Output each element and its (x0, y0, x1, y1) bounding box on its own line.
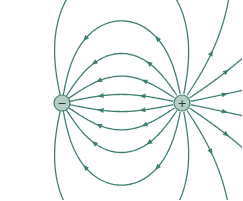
arrow-icon (207, 148, 214, 156)
field-line (70, 94, 173, 101)
arrow-icon (97, 93, 104, 99)
field-line (55, 0, 189, 95)
arrow-icon (208, 49, 215, 57)
field-line (187, 0, 231, 96)
positive-charge: + (174, 95, 190, 111)
field-line (187, 111, 231, 201)
negative-charge: − (54, 95, 70, 111)
field-line-group (55, 0, 242, 200)
field-lines: − + (0, 0, 242, 200)
arrow-icon (141, 77, 148, 84)
positive-charge-symbol: + (177, 97, 186, 110)
field-line (190, 0, 243, 98)
arrow-icon (95, 77, 102, 84)
negative-charge-symbol: − (57, 97, 66, 110)
field-line (63, 111, 180, 185)
arrow-icon (95, 122, 102, 129)
field-line (70, 105, 173, 112)
field-line (55, 111, 189, 200)
dipole-diagram: − + (0, 0, 242, 200)
arrow-icon (97, 107, 104, 113)
arrow-icon (141, 122, 148, 129)
field-line (63, 21, 180, 95)
field-line (190, 108, 243, 200)
